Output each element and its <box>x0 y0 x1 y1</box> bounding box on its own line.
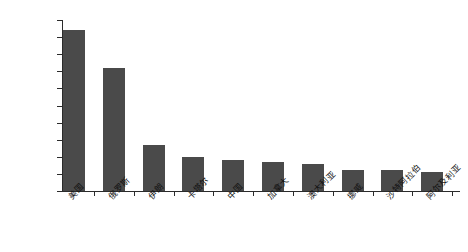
y-axis-tick <box>57 71 62 72</box>
y-axis-tick <box>57 123 62 124</box>
y-axis-tick <box>57 106 62 107</box>
y-axis-tick <box>57 174 62 175</box>
y-axis-tick <box>57 157 62 158</box>
y-axis-tick <box>57 37 62 38</box>
x-axis-tick-labels: 美国俄罗斯伊朗卡塔尔中国加拿大澳大利亚挪威沙特阿拉伯阿尔及利亚 <box>62 194 468 252</box>
y-axis-tick <box>57 54 62 55</box>
bar <box>103 68 125 191</box>
y-axis-tick <box>57 191 62 192</box>
y-axis-tick <box>57 20 62 21</box>
bar <box>63 30 85 191</box>
y-axis-tick <box>57 140 62 141</box>
plot-area <box>62 20 460 192</box>
y-axis-tick <box>57 88 62 89</box>
bar-chart: 产量（亿立方米） 0100020003000400050006000700080… <box>0 0 468 252</box>
